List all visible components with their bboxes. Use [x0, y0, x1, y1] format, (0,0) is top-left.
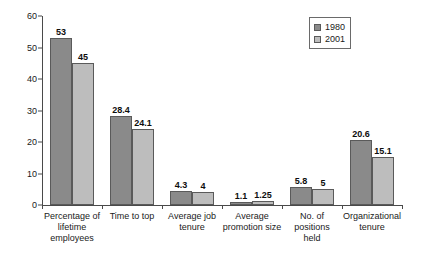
x-category-label-line: Average job [162, 211, 222, 222]
x-category-label-line: Time to top [102, 211, 162, 222]
legend-item-2001[interactable]: 2001 [314, 33, 345, 45]
bar-2001[interactable]: 5 [312, 189, 334, 205]
bar-group-bars: 28.424.1 [102, 16, 162, 205]
legend-swatch-icon-2001 [314, 36, 321, 43]
x-category-label-line: promotion size [222, 222, 282, 233]
bar-1980[interactable]: 1.1 [230, 202, 252, 205]
x-tick-mark [222, 205, 223, 209]
x-category-label-line: employees [42, 233, 102, 244]
bar-1980[interactable]: 20.6 [350, 140, 372, 205]
bar-group: 4.34 [162, 16, 222, 205]
x-tick-mark [42, 205, 43, 209]
bar-value-label: 28.4 [112, 105, 130, 115]
bar-group: 5345 [42, 16, 102, 205]
bar-value-label: 53 [56, 27, 66, 37]
bar-1980[interactable]: 53 [50, 38, 72, 205]
bar-1980[interactable]: 4.3 [170, 191, 192, 205]
bar-1980[interactable]: 5.8 [290, 187, 312, 205]
x-category-label-line: tenure [162, 222, 222, 233]
bar-value-label: 4 [200, 181, 205, 191]
x-category-label: Average jobtenure [162, 211, 222, 233]
x-category-label: Percentage oflifetimeemployees [42, 211, 102, 244]
bar-value-label: 20.6 [352, 129, 370, 139]
x-category-label-line: Percentage of [42, 211, 102, 222]
bar-value-label: 1.1 [235, 191, 248, 201]
bar-2001[interactable]: 1.25 [252, 201, 274, 205]
bar-value-label: 1.25 [254, 190, 272, 200]
bar-2001[interactable]: 4 [192, 192, 214, 205]
x-tick-mark [102, 205, 103, 209]
x-tick-mark [402, 205, 403, 209]
x-category-label-line: held [282, 233, 342, 244]
legend-item-1980[interactable]: 1980 [314, 21, 345, 33]
bar-2001[interactable]: 45 [72, 63, 94, 205]
x-category-label-line: Organizational [342, 211, 402, 222]
bar-value-label: 45 [78, 52, 88, 62]
bar-value-label: 5 [320, 178, 325, 188]
x-category-label-line: tenure [342, 222, 402, 233]
legend: 1980 2001 [309, 17, 351, 49]
x-category-label-line: lifetime [42, 222, 102, 233]
bar-2001[interactable]: 24.1 [132, 129, 154, 205]
x-category-label: Organizationaltenure [342, 211, 402, 233]
bar-value-label: 4.3 [175, 180, 188, 190]
chart-figure: 0102030405060 534528.424.14.341.11.255.8… [0, 0, 422, 262]
legend-label-1980: 1980 [325, 22, 345, 32]
x-category-label: Time to top [102, 211, 162, 222]
x-category-label-line: No. of positions [282, 211, 342, 233]
x-tick-mark [162, 205, 163, 209]
bar-value-label: 5.8 [295, 176, 308, 186]
bar-group: 1.11.25 [222, 16, 282, 205]
x-tick-mark [342, 205, 343, 209]
bar-value-label: 24.1 [134, 118, 152, 128]
legend-swatch-icon-1980 [314, 24, 321, 31]
bar-group: 28.424.1 [102, 16, 162, 205]
legend-label-2001: 2001 [325, 34, 345, 44]
x-tick-mark [282, 205, 283, 209]
x-category-label: No. of positionsheld [282, 211, 342, 244]
bar-2001[interactable]: 15.1 [372, 157, 394, 205]
bar-1980[interactable]: 28.4 [110, 116, 132, 205]
x-category-label: Averagepromotion size [222, 211, 282, 233]
bar-group-bars: 4.34 [162, 16, 222, 205]
x-category-label-line: Average [222, 211, 282, 222]
bar-group-bars: 5345 [42, 16, 102, 205]
bar-value-label: 15.1 [374, 146, 392, 156]
bar-group-bars: 1.11.25 [222, 16, 282, 205]
